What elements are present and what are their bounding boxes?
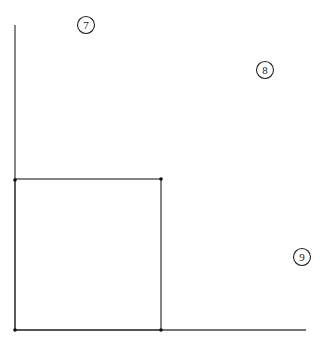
vertex-dot	[13, 178, 17, 182]
vertex-dot	[159, 328, 163, 332]
region-label-8: 8	[257, 62, 274, 79]
vertex-dot	[159, 177, 163, 181]
vertex-dot	[13, 328, 17, 332]
svg-text:9: 9	[299, 251, 305, 263]
svg-text:8: 8	[262, 64, 268, 76]
square	[15, 179, 161, 330]
svg-text:7: 7	[83, 19, 89, 31]
diagram-canvas: 7 8 9	[0, 0, 320, 343]
region-label-9: 9	[294, 249, 311, 266]
region-label-7: 7	[78, 17, 95, 34]
